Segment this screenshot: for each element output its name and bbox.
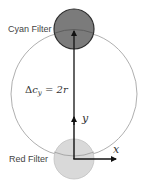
red-filter-label: Red Filter [9,155,48,164]
x-axis-label: x [113,144,119,155]
formula-rest: = 2r [42,84,68,95]
formula-delta-cy: Δcy = 2r [25,85,68,97]
cyan-filter-label: Cyan Filter [8,25,52,34]
diagram-canvas: Cyan Filter Red Filter Δcy = 2r y x [0,0,141,188]
y-axis-label: y [82,113,88,124]
